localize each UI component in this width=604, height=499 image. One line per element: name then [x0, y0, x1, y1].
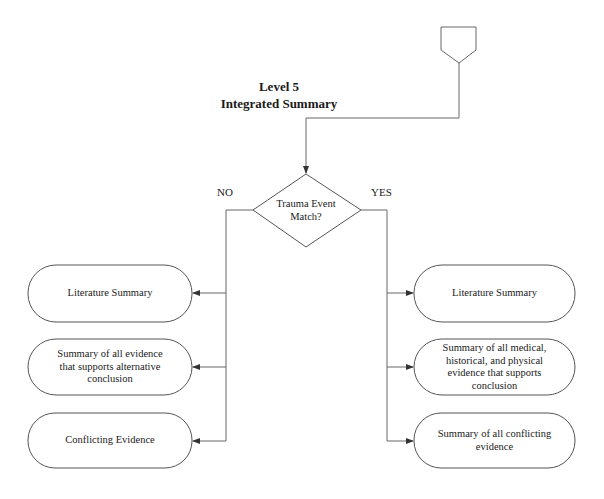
- left-node-alternative-evidence: Summary of all evidence that supports al…: [28, 339, 192, 395]
- decision-label-line2: Match?: [262, 211, 350, 224]
- no-branch-label: NO: [217, 186, 233, 199]
- yes-branch-line: [361, 210, 387, 441]
- left-node-conflicting-evidence: Conflicting Evidence: [28, 413, 192, 468]
- no-branch-line: [226, 210, 253, 441]
- right-node-conflicting-evidence: Summary of all conflicting evidence: [414, 413, 575, 468]
- title-name: Integrated Summary: [170, 95, 388, 112]
- left-node-literature-summary: Literature Summary: [28, 265, 192, 322]
- off-page-connector: [441, 27, 476, 63]
- decision-label-line1: Trauma Event: [262, 198, 350, 211]
- right-node-literature-summary: Literature Summary: [414, 265, 575, 322]
- decision-label: Trauma Event Match?: [262, 198, 350, 223]
- diagram-title: Level 5 Integrated Summary: [170, 78, 388, 112]
- title-level: Level 5: [170, 78, 388, 95]
- right-node-supporting-evidence: Summary of all medical, historical, and …: [414, 339, 575, 395]
- yes-branch-label: YES: [371, 186, 392, 199]
